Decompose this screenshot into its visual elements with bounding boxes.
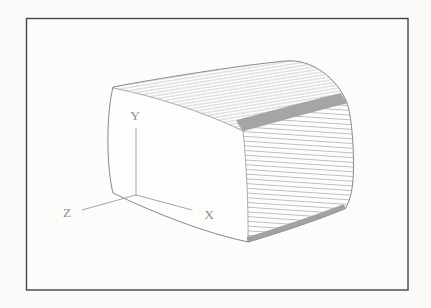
y-axis-label: Y <box>130 108 140 123</box>
z-axis-label: Z <box>63 205 71 220</box>
superellipsoid-diagram: Y X Z <box>0 0 431 308</box>
x-axis-label: X <box>204 207 214 222</box>
scanned-figure-page: Y X Z <box>0 0 431 308</box>
